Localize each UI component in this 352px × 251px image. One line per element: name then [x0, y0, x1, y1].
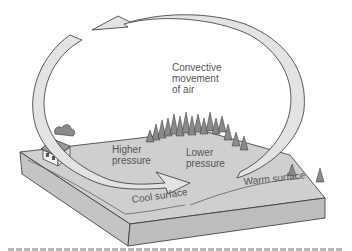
lower-pressure-label-line2: pressure — [186, 158, 225, 169]
convective-label-line3: of air — [172, 84, 194, 95]
higher-pressure-label-line2: pressure — [112, 155, 151, 166]
convection-diagram: Convective movement of air Higher pressu… — [0, 0, 352, 251]
higher-pressure-label-line1: Higher — [112, 144, 141, 155]
convective-label-line1: Convective — [172, 62, 221, 73]
convective-label-line2: movement — [172, 73, 219, 84]
lower-pressure-label-line1: Lower — [186, 147, 213, 158]
diagram-graphics — [0, 0, 352, 251]
